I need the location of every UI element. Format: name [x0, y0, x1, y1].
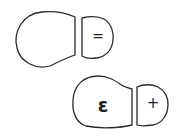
footprint-diagram: = ε + [0, 0, 178, 139]
footprint-lower: ε + [73, 76, 168, 128]
sole-lower-symbol: ε [98, 94, 109, 116]
heel-lower-symbol: + [147, 94, 160, 112]
heel-upper-symbol: = [92, 28, 104, 44]
footprint-upper: = [16, 12, 113, 67]
sole-upper [16, 12, 75, 67]
